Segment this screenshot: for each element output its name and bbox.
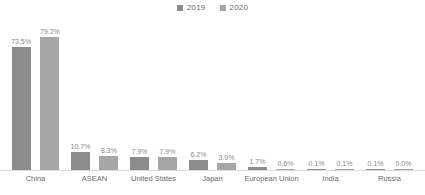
category-label: India	[301, 174, 360, 183]
bar-wrap: 79.2%	[40, 18, 60, 170]
bar-value-label: 10.7%	[71, 143, 91, 150]
category-label: United States	[124, 174, 183, 183]
legend-label-2020: 2020	[230, 4, 249, 12]
bar-group: 1.7%0.6%	[242, 18, 301, 170]
bar-value-label: 8.3%	[101, 147, 117, 154]
bar-group: 10.7%8.3%	[65, 18, 124, 170]
legend-label-2019: 2019	[187, 4, 206, 12]
bar-wrap: 10.7%	[71, 18, 91, 170]
bar[interactable]	[12, 47, 31, 170]
bars: 1.7%0.6%	[248, 18, 295, 170]
bar-group: 6.2%3.9%	[183, 18, 242, 170]
category-axis: ChinaASEANUnited StatesJapanEuropean Uni…	[6, 174, 419, 183]
legend-swatch-2019	[177, 5, 183, 11]
bar-value-label: 0.1%	[368, 160, 384, 167]
bar[interactable]	[189, 160, 208, 170]
bar-value-label: 1.7%	[250, 158, 266, 165]
bar-group: 0.1%0.0%	[360, 18, 419, 170]
bars: 7.9%7.9%	[130, 18, 177, 170]
bar-groups: 73.5%79.2%10.7%8.3%7.9%7.9%6.2%3.9%1.7%0…	[6, 18, 419, 170]
legend-item-2019[interactable]: 2019	[177, 4, 206, 12]
bar[interactable]	[130, 157, 149, 170]
bar-value-label: 0.1%	[309, 160, 325, 167]
bar-wrap: 0.1%	[307, 18, 326, 170]
bar-wrap: 0.1%	[335, 18, 354, 170]
bar-value-label: 7.9%	[132, 148, 148, 155]
plot-area: 73.5%79.2%10.7%8.3%7.9%7.9%6.2%3.9%1.7%0…	[0, 18, 425, 170]
bar-wrap: 8.3%	[99, 18, 118, 170]
category-label: Russia	[360, 174, 419, 183]
bar-wrap: 1.7%	[248, 18, 267, 170]
bar-wrap: 6.2%	[189, 18, 208, 170]
bar[interactable]	[40, 37, 59, 170]
bar-wrap: 3.9%	[217, 18, 236, 170]
category-label: European Union	[242, 174, 301, 183]
bar-value-label: 0.0%	[396, 160, 412, 167]
bar-value-label: 7.9%	[160, 148, 176, 155]
legend-swatch-2020	[220, 5, 226, 11]
bar[interactable]	[71, 152, 90, 170]
bar-wrap: 0.1%	[366, 18, 385, 170]
bar-value-label: 73.5%	[11, 38, 31, 45]
category-label: ASEAN	[65, 174, 124, 183]
bar-group: 0.1%0.1%	[301, 18, 360, 170]
bar-value-label: 3.9%	[219, 154, 235, 161]
bar-wrap: 73.5%	[11, 18, 31, 170]
bars: 73.5%79.2%	[11, 18, 60, 170]
category-label: China	[6, 174, 65, 183]
bar-wrap: 0.6%	[276, 18, 295, 170]
bars: 6.2%3.9%	[189, 18, 236, 170]
bars: 0.1%0.0%	[366, 18, 413, 170]
bar[interactable]	[158, 157, 177, 170]
bar-wrap: 7.9%	[158, 18, 177, 170]
bar-group: 73.5%79.2%	[6, 18, 65, 170]
bar-value-label: 0.1%	[337, 160, 353, 167]
bar-wrap: 0.0%	[394, 18, 413, 170]
bars: 10.7%8.3%	[71, 18, 119, 170]
bar-wrap: 7.9%	[130, 18, 149, 170]
bars: 0.1%0.1%	[307, 18, 354, 170]
bar-value-label: 79.2%	[40, 28, 60, 35]
chart-legend: 2019 2020	[0, 4, 425, 12]
axis-baseline	[0, 170, 425, 171]
bar[interactable]	[99, 156, 118, 170]
bar-value-label: 6.2%	[191, 151, 207, 158]
legend-item-2020[interactable]: 2020	[220, 4, 249, 12]
bar-group: 7.9%7.9%	[124, 18, 183, 170]
bar-value-label: 0.6%	[278, 160, 294, 167]
category-label: Japan	[183, 174, 242, 183]
bar-chart: 2019 2020 73.5%79.2%10.7%8.3%7.9%7.9%6.2…	[0, 0, 425, 195]
